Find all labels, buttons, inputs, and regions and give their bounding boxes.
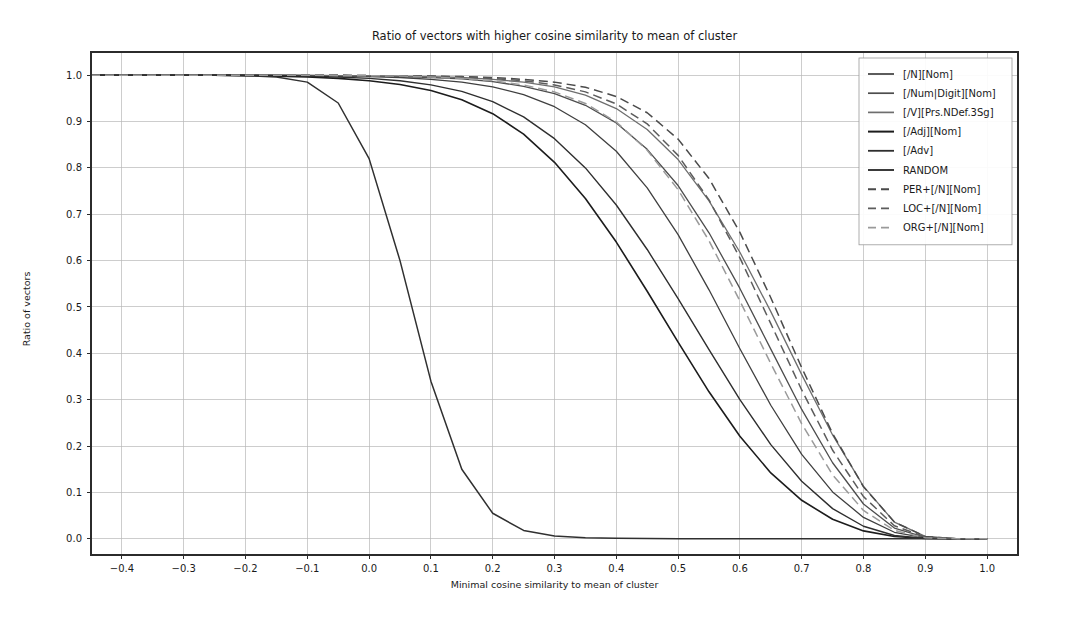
y-tick-label: 0.7 bbox=[66, 209, 82, 220]
x-tick-label: 0.9 bbox=[917, 563, 933, 574]
x-tick-label: −0.4 bbox=[110, 563, 134, 574]
x-tick-label: 0.6 bbox=[732, 563, 748, 574]
chart-title: Ratio of vectors with higher cosine simi… bbox=[372, 29, 738, 43]
y-tick-label: 1.0 bbox=[66, 70, 82, 81]
figure-canvas: −0.4−0.3−0.2−0.10.00.10.20.30.40.50.60.7… bbox=[0, 0, 1068, 617]
x-tick-label: 0.5 bbox=[670, 563, 686, 574]
y-tick-label: 0.3 bbox=[66, 394, 82, 405]
legend[interactable]: [/N][Nom][/Num|Digit][Nom][/V][Prs.NDef.… bbox=[859, 58, 1012, 245]
y-tick-label: 0.0 bbox=[66, 533, 82, 544]
y-tick-label: 0.2 bbox=[66, 441, 82, 452]
x-tick-label: 0.3 bbox=[547, 563, 563, 574]
y-axis-label: Ratio of vectors bbox=[21, 272, 32, 347]
y-tick-label: 0.5 bbox=[66, 302, 82, 313]
legend-label-1[interactable]: [/Num|Digit][Nom] bbox=[903, 88, 996, 100]
legend-label-3[interactable]: [/Adj][Nom] bbox=[903, 126, 961, 137]
legend-label-2[interactable]: [/V][Prs.NDef.3Sg] bbox=[903, 107, 994, 118]
y-tick-label: 0.8 bbox=[66, 162, 82, 173]
x-tick-label: 0.7 bbox=[794, 563, 810, 574]
x-tick-label: 0.4 bbox=[608, 563, 624, 574]
legend-label-8[interactable]: ORG+[/N][Nom] bbox=[903, 222, 984, 233]
x-tick-label: −0.2 bbox=[233, 563, 257, 574]
x-tick-label: 0.8 bbox=[856, 563, 872, 574]
x-tick-label: 0.2 bbox=[485, 563, 501, 574]
y-tick-label: 0.6 bbox=[66, 255, 82, 266]
y-tick-label: 0.1 bbox=[66, 487, 82, 498]
y-tick-label: 0.4 bbox=[66, 348, 82, 359]
x-tick-label: 0.0 bbox=[361, 563, 377, 574]
legend-label-4[interactable]: [/Adv] bbox=[903, 145, 933, 156]
x-tick-label: 1.0 bbox=[979, 563, 995, 574]
tick-layer: −0.4−0.3−0.2−0.10.00.10.20.30.40.50.60.7… bbox=[66, 70, 995, 574]
y-tick-label: 0.9 bbox=[66, 116, 82, 127]
x-tick-label: −0.1 bbox=[295, 563, 319, 574]
legend-label-0[interactable]: [/N][Nom] bbox=[903, 69, 953, 80]
x-tick-label: 0.1 bbox=[423, 563, 439, 574]
x-tick-label: −0.3 bbox=[172, 563, 196, 574]
legend-label-5[interactable]: RANDOM bbox=[903, 165, 948, 176]
legend-label-6[interactable]: PER+[/N][Nom] bbox=[903, 184, 981, 195]
legend-label-7[interactable]: LOC+[/N][Nom] bbox=[903, 203, 981, 214]
x-axis-label: Minimal cosine similarity to mean of clu… bbox=[451, 579, 659, 590]
line-chart: −0.4−0.3−0.2−0.10.00.10.20.30.40.50.60.7… bbox=[0, 0, 1068, 617]
